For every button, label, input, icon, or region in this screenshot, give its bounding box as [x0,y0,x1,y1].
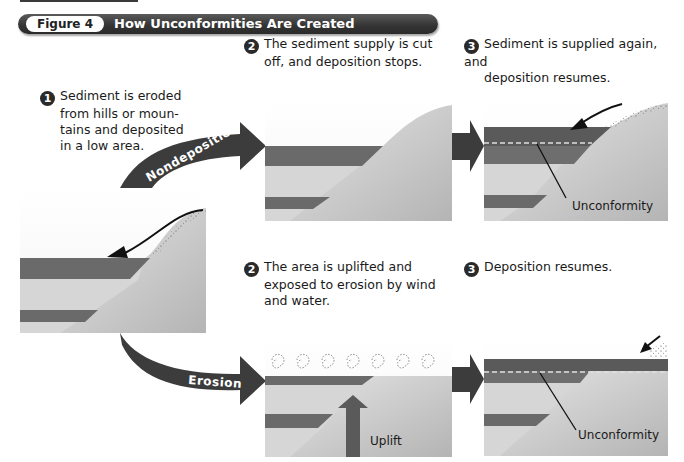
uplift-label: Uplift [370,434,402,448]
erosion-arrow: Erosion [120,333,266,405]
panel-initial-deposition [20,190,206,333]
diagram-graphics: Nondeposition Erosion [0,0,684,462]
nondeposition-arrow: Nondeposition [120,120,266,188]
panel-bottom-erosion [265,338,452,457]
bottom-transition-arrow [452,354,484,404]
panel-top-nondeposition [265,103,452,221]
top-transition-arrow [452,120,484,172]
unconformity-label-bottom: Unconformity [578,428,659,442]
unconformity-label-top: Unconformity [572,199,653,213]
